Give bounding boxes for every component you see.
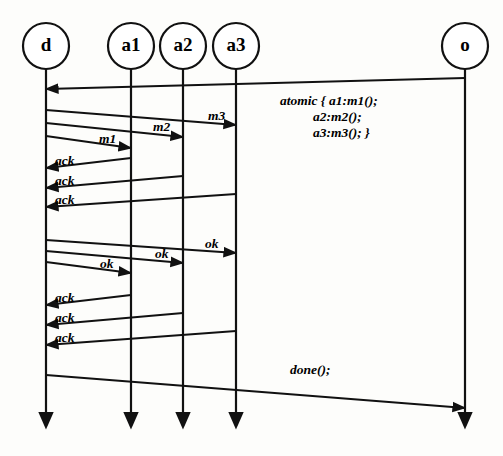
actor-label-a3: a3 xyxy=(227,34,246,55)
message-msg-ack-6[interactable]: ack xyxy=(46,330,236,345)
message-arrow-msg-atomic-call xyxy=(46,78,465,89)
message-label-msg-ok-3: ok xyxy=(205,236,219,251)
actor-label-o: o xyxy=(460,34,470,55)
message-label-msg-ack-5: ack xyxy=(55,310,75,325)
message-label-msg-m2: m2 xyxy=(153,119,171,134)
message-label-msg-m1: m1 xyxy=(99,131,116,146)
message-msg-ack-3[interactable]: ack xyxy=(46,192,236,207)
message-msg-ok-1[interactable]: ok xyxy=(46,256,131,273)
message-arrow-msg-done xyxy=(46,375,465,408)
message-label-msg-ack-4: ack xyxy=(55,290,75,305)
message-msg-ok-2[interactable]: ok xyxy=(46,246,183,263)
messages-group: m3m2m1ackackackokokokackackackdone(); xyxy=(46,78,465,408)
sequence-diagram-svg: da1a2a3o m3m2m1ackackackokokokackackackd… xyxy=(0,0,503,456)
message-arrow-msg-ack-3 xyxy=(46,194,236,207)
message-msg-m1[interactable]: m1 xyxy=(46,131,131,148)
atomic-note-line-1: atomic { a1:m1(); xyxy=(280,93,378,108)
message-msg-ack-5[interactable]: ack xyxy=(46,310,183,325)
message-arrow-msg-ack-6 xyxy=(46,331,236,345)
actor-label-d: d xyxy=(41,34,52,55)
lifeline-a2[interactable]: a2 xyxy=(160,23,206,426)
message-label-msg-ok-2: ok xyxy=(155,246,169,261)
message-arrow-msg-ok-1 xyxy=(46,262,131,273)
message-label-msg-done: done(); xyxy=(290,362,331,377)
message-msg-m3[interactable]: m3 xyxy=(46,108,236,125)
message-msg-ok-3[interactable]: ok xyxy=(46,236,236,253)
message-msg-ack-2[interactable]: ack xyxy=(46,173,183,188)
message-msg-ack-4[interactable]: ack xyxy=(46,290,131,305)
message-msg-atomic-call[interactable] xyxy=(46,78,465,89)
sequence-diagram-canvas: da1a2a3o m3m2m1ackackackokokokackackackd… xyxy=(0,0,503,456)
message-msg-ack-1[interactable]: ack xyxy=(46,153,131,168)
actor-label-a2: a2 xyxy=(174,34,193,55)
message-label-msg-ok-1: ok xyxy=(100,256,114,271)
message-msg-done[interactable]: done(); xyxy=(46,362,465,408)
message-label-msg-ack-3: ack xyxy=(55,192,75,207)
atomic-note-line-2: a2:m2(); xyxy=(313,109,362,124)
message-label-msg-m3: m3 xyxy=(208,108,226,123)
message-label-msg-ack-1: ack xyxy=(55,153,75,168)
lifeline-a1[interactable]: a1 xyxy=(108,23,154,426)
actor-label-a1: a1 xyxy=(122,34,141,55)
message-arrow-msg-m1 xyxy=(46,136,131,148)
lifeline-o[interactable]: o xyxy=(442,23,488,426)
atomic-note-line-3: a3:m3(); } xyxy=(313,125,370,140)
lifeline-d[interactable]: d xyxy=(23,23,69,426)
message-label-msg-ack-2: ack xyxy=(55,173,75,188)
atomic-note: atomic { a1:m1();a2:m2();a3:m3(); } xyxy=(280,93,378,140)
message-label-msg-ack-6: ack xyxy=(55,330,75,345)
